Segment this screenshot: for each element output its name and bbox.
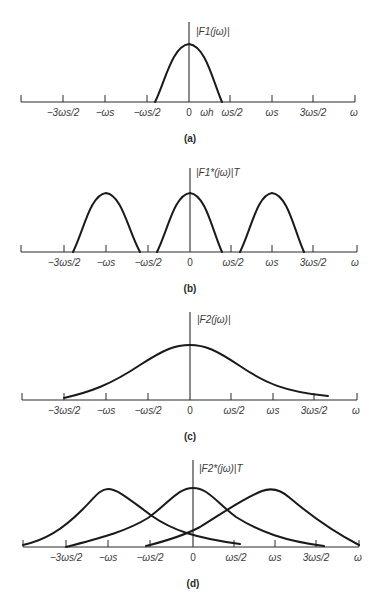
y-axis-label: |F1(jω)| (196, 26, 230, 37)
svg-text:ωs/2: ωs/2 (221, 107, 243, 118)
panel-b: |F1*(jω)|T −3ωs/2 −ωs −ωs/2 0 ωs/2 ωs 3ω… (21, 167, 359, 294)
panel-caption: (c) (184, 431, 196, 442)
svg-text:3ωs/2: 3ωs/2 (303, 552, 330, 563)
svg-text:−ωs/2: −ωs/2 (137, 552, 164, 563)
svg-text:−ωs: −ωs (99, 552, 118, 563)
spectra-figure: |F1(jω)| −3ωs/2 −ωs −ωs/2 0 ωh ωs/2 ωs 3… (0, 0, 371, 598)
spectrum-replica-minus-ws (73, 193, 140, 252)
svg-text:−3ωs/2: −3ωs/2 (50, 552, 83, 563)
svg-text:−ωs/2: −ωs/2 (134, 107, 161, 118)
svg-text:3ωs/2: 3ωs/2 (300, 107, 327, 118)
axis-ticks (21, 245, 357, 252)
spectrum-replica-plus-ws (146, 489, 359, 546)
panel-caption: (a) (184, 133, 196, 144)
svg-text:ωs/2: ωs/2 (223, 405, 245, 416)
spectrum-curve (64, 345, 328, 398)
axis-ticks (21, 95, 355, 102)
svg-text:0: 0 (187, 405, 193, 416)
panel-d: |F2*(jω)|T −3ωs/2 −ωs −ωs/2 0 ωs/2 ωs 3ω… (23, 460, 362, 589)
svg-text:3ωs/2: 3ωs/2 (301, 405, 328, 416)
spectrum-replica-zero (66, 488, 324, 547)
svg-text:ωs: ωs (266, 107, 279, 118)
panel-caption: (b) (184, 283, 197, 294)
svg-text:ω: ω (354, 552, 362, 563)
y-axis-label: |F1*(jω)|T (196, 167, 240, 178)
svg-text:−ωs: −ωs (96, 107, 115, 118)
svg-text:−3ωs/2: −3ωs/2 (48, 257, 81, 268)
y-axis-label: |F2*(jω)|T (199, 463, 243, 474)
tick-labels: −3ωs/2 −ωs −ωs/2 0 ωs/2 ωs 3ωs/2 ω (48, 405, 360, 416)
panel-a: |F1(jω)| −3ωs/2 −ωs −ωs/2 0 ωh ωs/2 ωs 3… (21, 22, 358, 144)
svg-text:ωs/2: ωs/2 (222, 257, 244, 268)
tick-labels: −3ωs/2 −ωs −ωs/2 0 ωs/2 ωs 3ωs/2 ω (48, 257, 359, 268)
spectrum-replica-plus-ws (240, 193, 304, 252)
spectrum-replica-minus-ws (23, 489, 240, 545)
tick-labels: −3ωs/2 −ωs −ωs/2 0 ωs/2 ωs 3ωs/2 ω (50, 552, 362, 563)
svg-text:0: 0 (186, 107, 192, 118)
svg-text:ω: ω (352, 405, 360, 416)
panel-c: |F2(jω)| −3ωs/2 −ωs −ωs/2 0 ωs/2 ωs 3ωs/… (22, 312, 360, 442)
svg-text:ωh: ωh (200, 107, 214, 118)
svg-text:−ωs: −ωs (97, 257, 116, 268)
tick-labels: −3ωs/2 −ωs −ωs/2 0 ωh ωs/2 ωs 3ωs/2 ω (47, 107, 358, 118)
svg-text:3ωs/2: 3ωs/2 (300, 257, 327, 268)
svg-text:0: 0 (190, 552, 196, 563)
svg-text:−3ωs/2: −3ωs/2 (47, 107, 80, 118)
svg-text:−ωs/2: −ωs/2 (135, 405, 162, 416)
svg-text:−ωs: −ωs (97, 405, 116, 416)
panel-caption: (d) (187, 578, 200, 589)
svg-text:ωs: ωs (267, 405, 280, 416)
svg-text:−ωs/2: −ωs/2 (135, 257, 162, 268)
svg-text:ωs: ωs (269, 552, 282, 563)
svg-text:−3ωs/2: −3ωs/2 (48, 405, 81, 416)
svg-text:0: 0 (187, 257, 193, 268)
y-axis-label: |F2(jω)| (197, 314, 231, 325)
svg-text:ωs/2: ωs/2 (225, 552, 247, 563)
svg-text:ω: ω (351, 257, 359, 268)
svg-text:ω: ω (350, 107, 358, 118)
svg-text:ωs: ωs (266, 257, 279, 268)
